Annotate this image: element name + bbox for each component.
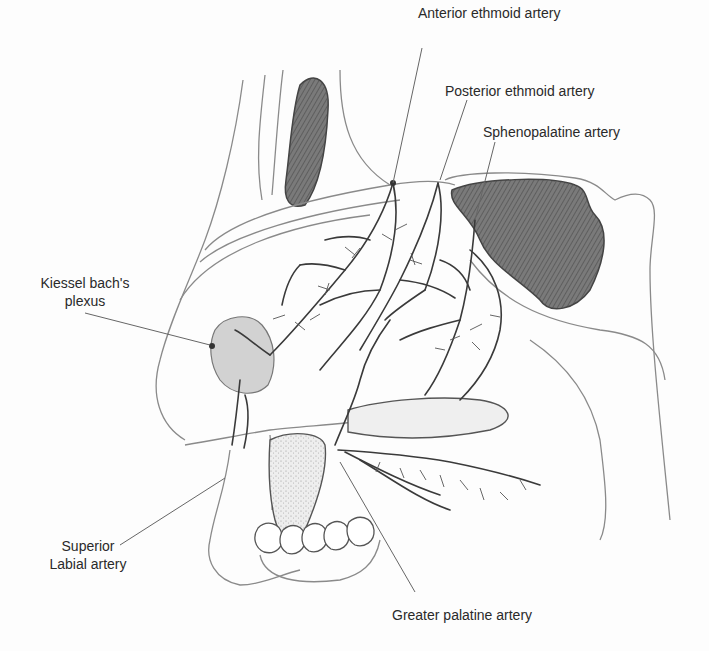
frontal-sinus xyxy=(285,78,328,206)
palate xyxy=(269,398,508,539)
label-superior-labial-line1: Superior xyxy=(38,537,138,555)
label-posterior-ethmoid-artery: Posterior ethmoid artery xyxy=(445,82,594,100)
label-kiesselbach-line1: Kiessel bach's xyxy=(30,274,140,292)
kiesselbachs-plexus-area xyxy=(211,317,274,393)
label-superior-labial-artery: Superior Labial artery xyxy=(38,537,138,573)
label-kiesselbach-line2: plexus xyxy=(30,292,140,310)
label-sphenopalatine-artery: Sphenopalatine artery xyxy=(483,123,620,141)
label-anterior-ethmoid-artery: Anterior ethmoid artery xyxy=(418,4,560,22)
label-superior-labial-line2: Labial artery xyxy=(38,555,138,573)
label-kiesselbachs-plexus: Kiessel bach's plexus xyxy=(30,274,140,310)
label-greater-palatine-artery: Greater palatine artery xyxy=(392,606,532,624)
anatomy-figure: Anterior ethmoid artery Posterior ethmoi… xyxy=(0,0,709,651)
sphenoid-sinus xyxy=(452,179,605,308)
teeth xyxy=(255,517,374,553)
